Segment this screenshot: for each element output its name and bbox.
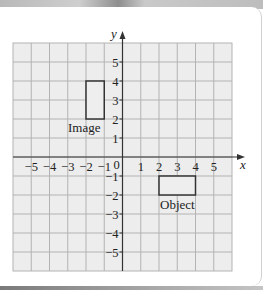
image-rectangle (86, 81, 104, 119)
y-tick-label: −5 (105, 246, 118, 260)
y-tick-label: 4 (112, 75, 119, 89)
x-tick-label: −3 (61, 160, 74, 174)
image-label: Image (68, 120, 101, 135)
x-tick-label: −5 (25, 160, 38, 174)
object-label: Object (160, 197, 195, 212)
y-tick-label: −2 (105, 189, 118, 203)
x-tick-label: 2 (156, 160, 162, 174)
y-tick-label: 2 (112, 113, 118, 127)
x-tick-label: −2 (79, 160, 92, 174)
y-tick-label: 1 (112, 132, 118, 146)
x-tick-label: 1 (138, 160, 144, 174)
x-tick-label: −4 (43, 160, 57, 174)
object-rectangle (159, 176, 196, 195)
x-axis-label: x (239, 157, 246, 172)
y-axis-arrow-icon (120, 31, 126, 39)
y-tick-label: −4 (105, 227, 119, 241)
y-tick-label: −3 (105, 208, 118, 222)
y-tick-label: −1 (105, 170, 118, 184)
y-tick-label: 3 (112, 94, 118, 108)
x-tick-label: 5 (211, 160, 217, 174)
y-axis-label: y (109, 26, 117, 41)
y-tick-label: 5 (112, 56, 118, 70)
x-tick-label: 3 (174, 160, 180, 174)
x-tick-label: 4 (192, 160, 199, 174)
coordinate-grid: x y −5−4−3−2−101234554321−1−2−3−4−5 Imag… (0, 0, 263, 290)
